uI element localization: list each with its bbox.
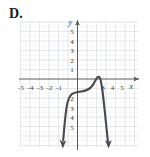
y-tick-4: 4 bbox=[70, 38, 74, 46]
x-tick-neg4: -4 bbox=[28, 84, 34, 92]
x-tick-neg5: -5 bbox=[18, 84, 24, 92]
y-tick-neg4: 4 bbox=[70, 114, 74, 122]
y-tick-1: 1 bbox=[70, 66, 74, 74]
y-tick-5: 5 bbox=[70, 28, 74, 36]
coordinate-graph: x y -5 -4 -3 -2 -1 3 4 5 5 4 3 2 1 2 3 4… bbox=[0, 0, 150, 157]
y-axis bbox=[75, 20, 80, 150]
x-tick-neg1: -1 bbox=[56, 84, 62, 92]
y-tick-2: 2 bbox=[70, 57, 74, 65]
x-axis bbox=[19, 77, 139, 82]
x-axis-label: x bbox=[129, 82, 134, 91]
y-tick-neg3: 3 bbox=[70, 105, 74, 113]
x-tick-4: 4 bbox=[111, 84, 115, 92]
y-tick-3: 3 bbox=[70, 47, 74, 55]
x-tick-5: 5 bbox=[120, 84, 124, 92]
figure-panel: D. bbox=[0, 0, 150, 157]
y-axis-label: y bbox=[68, 18, 73, 27]
x-tick-neg2: -2 bbox=[47, 84, 53, 92]
y-tick-neg5: 5 bbox=[70, 124, 74, 132]
x-tick-neg3: -3 bbox=[37, 84, 43, 92]
